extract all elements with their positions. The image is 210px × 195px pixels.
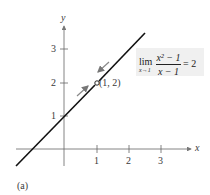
point-label: (1, 2) bbox=[99, 78, 121, 88]
approach-arrow-right bbox=[98, 62, 109, 72]
x-tick-label-2: 2 bbox=[126, 156, 131, 166]
limit-word: lim bbox=[139, 56, 152, 67]
y-axis-label: y bbox=[61, 13, 65, 23]
limit-graph bbox=[0, 0, 210, 195]
function-line bbox=[16, 85, 95, 166]
x-tick-label-1: 1 bbox=[94, 156, 99, 166]
limit-subscript: x→1 bbox=[139, 67, 151, 73]
y-tick-label-2: 2 bbox=[51, 78, 56, 88]
limit-fraction: x² − 1 x − 1 bbox=[156, 52, 181, 77]
y-tick-label-1: 1 bbox=[51, 111, 56, 121]
denominator: x − 1 bbox=[156, 65, 181, 77]
x-axis-label: x bbox=[195, 143, 199, 153]
x-tick-label-3: 3 bbox=[158, 156, 163, 166]
y-tick-label-3: 3 bbox=[51, 44, 56, 54]
figure-label: (a) bbox=[17, 181, 28, 191]
numerator: x² − 1 bbox=[156, 52, 181, 65]
limit-equals: = 2 bbox=[183, 58, 196, 69]
